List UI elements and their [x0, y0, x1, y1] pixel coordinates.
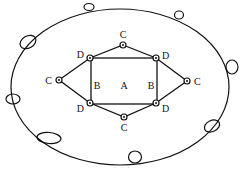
node-D-tl: D — [77, 49, 93, 61]
node-label: D — [77, 103, 84, 114]
figure-caption: · · · — [0, 163, 245, 172]
node-D-bl: D — [77, 100, 93, 114]
node-label: D — [77, 49, 84, 60]
boundary-oval — [37, 131, 62, 144]
node-C-left: C — [45, 75, 62, 86]
boundary-oval — [129, 151, 142, 163]
node-label: D — [162, 50, 169, 61]
hexagon-lattice-diagram: CCCCDDDD BAB — [0, 0, 245, 176]
boundary-oval — [175, 11, 184, 19]
node-label: C — [120, 29, 127, 40]
region-label-b: B — [94, 80, 101, 91]
region-label-b: B — [148, 80, 155, 91]
region-label-a: A — [120, 80, 128, 91]
boundary-oval — [84, 4, 94, 11]
node-C-bottom: C — [121, 114, 128, 133]
node-C-right: C — [184, 76, 201, 87]
node-D-tr: D — [153, 50, 169, 61]
node-label: C — [194, 76, 201, 87]
boundary-oval — [226, 60, 238, 74]
boundary-oval — [18, 33, 39, 52]
node-label: D — [162, 103, 169, 114]
node-label: C — [45, 75, 52, 86]
node-C-top: C — [120, 29, 127, 48]
region-labels: BAB — [94, 80, 155, 91]
node-label: C — [121, 122, 128, 133]
node-D-br: D — [153, 100, 169, 114]
